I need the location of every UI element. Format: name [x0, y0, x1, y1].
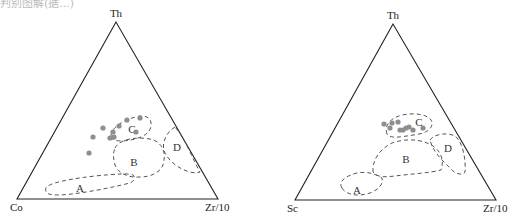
- left-triangle-frame: [17, 22, 218, 199]
- sample-point: [420, 125, 425, 130]
- right-field-a: [341, 172, 383, 195]
- sample-point: [90, 134, 95, 139]
- right-field-label-b: B: [402, 153, 409, 165]
- sample-point: [100, 125, 105, 130]
- left-apex-top-label: Th: [110, 7, 123, 19]
- right-field-d: [430, 134, 465, 174]
- ternary-diagrams: Th Co Zr/10 A B C D Th Sc: [0, 0, 514, 220]
- sample-point: [110, 129, 115, 134]
- left-field-label-b: B: [130, 156, 137, 168]
- left-field-label-a: A: [76, 182, 84, 194]
- right-apex-left-label: Sc: [287, 202, 298, 214]
- left-field-label-d: D: [173, 141, 181, 153]
- left-field-d: [163, 127, 200, 173]
- sample-point: [410, 127, 415, 132]
- left-ternary-diagram: Th Co Zr/10 A B C D: [10, 7, 230, 213]
- right-field-label-a: A: [353, 184, 361, 196]
- right-ternary-diagram: Th Sc Zr/10 A B C D: [287, 9, 508, 214]
- sample-point: [395, 119, 400, 124]
- sample-point: [133, 129, 138, 134]
- sample-point: [137, 115, 142, 120]
- right-field-label-d: D: [444, 142, 452, 154]
- right-triangle-frame: [295, 24, 496, 200]
- sample-point: [86, 150, 91, 155]
- left-field-a: [45, 174, 134, 195]
- sample-point: [111, 134, 116, 139]
- sample-point: [124, 117, 129, 122]
- left-apex-right-label: Zr/10: [205, 201, 230, 213]
- right-apex-top-label: Th: [387, 9, 400, 21]
- sample-point: [389, 120, 394, 125]
- right-apex-right-label: Zr/10: [483, 202, 508, 214]
- left-field-b: [114, 138, 165, 177]
- left-apex-left-label: Co: [10, 201, 23, 213]
- sample-point: [381, 121, 386, 126]
- sample-point: [116, 123, 121, 128]
- sample-point: [387, 125, 392, 130]
